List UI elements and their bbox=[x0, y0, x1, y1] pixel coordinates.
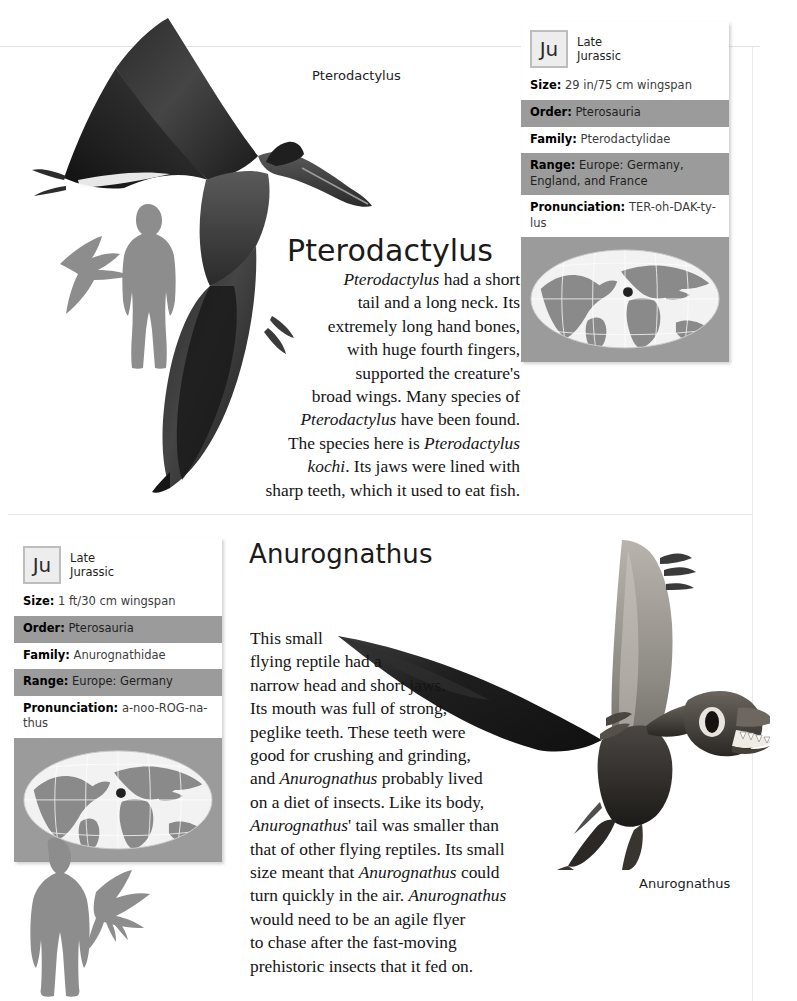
size-label: Size: bbox=[23, 594, 54, 608]
period-header: Ju Late Jurassic bbox=[14, 538, 222, 591]
pterodactylus-caption: Pterodactylus bbox=[312, 68, 401, 83]
jurassic-badge-icon: Ju bbox=[530, 30, 568, 68]
jurassic-badge-icon: Ju bbox=[23, 546, 61, 584]
period-line-1: Late bbox=[70, 551, 95, 565]
period-line-1: Late bbox=[577, 35, 602, 49]
range-label: Range: bbox=[530, 158, 575, 172]
size-row: Size: 29 in/75 cm wingspan bbox=[521, 75, 729, 100]
period-line-2: Jurassic bbox=[70, 565, 114, 579]
family-row: Family: Anurognathidae bbox=[14, 643, 222, 670]
anurognathus-body-text: This small flying reptile had a narrow h… bbox=[250, 627, 550, 978]
family-label: Family: bbox=[530, 132, 577, 146]
world-map-icon bbox=[527, 246, 723, 352]
section-divider-rule bbox=[8, 514, 752, 515]
order-row: Order: Pterosauria bbox=[14, 616, 222, 643]
range-label: Range: bbox=[23, 674, 68, 688]
size-row: Size: 1 ft/30 cm wingspan bbox=[14, 591, 222, 616]
anurognathus-scale-figures bbox=[18, 832, 198, 1001]
pterodactylus-scale-figures bbox=[44, 196, 184, 376]
family-value: Pterodactylidae bbox=[581, 132, 671, 146]
pronunciation-row: Pronunciation: TER-oh-DAK-ty-lus bbox=[521, 195, 729, 237]
period-header: Ju Late Jurassic bbox=[521, 22, 729, 75]
range-marker-icon bbox=[116, 788, 126, 798]
period-name: Late Jurassic bbox=[70, 551, 114, 580]
family-label: Family: bbox=[23, 648, 70, 662]
range-map bbox=[521, 237, 729, 362]
order-value: Pterosauria bbox=[68, 621, 133, 635]
family-row: Family: Pterodactylidae bbox=[521, 127, 729, 154]
range-value: Europe: Germany bbox=[72, 674, 173, 688]
order-label: Order: bbox=[23, 621, 65, 635]
pronunciation-row: Pronunciation: a-noo-ROG-na-thus bbox=[14, 696, 222, 738]
anurognathus-info-box: Ju Late Jurassic Size: 1 ft/30 cm wingsp… bbox=[14, 538, 222, 862]
range-row: Range: Europe: Germany, England, and Fra… bbox=[521, 153, 729, 195]
anurognathus-caption: Anurognathus bbox=[639, 876, 730, 891]
range-marker-icon bbox=[623, 287, 633, 297]
size-label: Size: bbox=[530, 78, 561, 92]
pronunciation-label: Pronunciation: bbox=[23, 701, 118, 715]
family-value: Anurognathidae bbox=[74, 648, 166, 662]
book-page: Pterodactylus Pterodactylus Pterodactylu… bbox=[0, 0, 797, 1001]
period-name: Late Jurassic bbox=[577, 35, 621, 64]
period-line-2: Jurassic bbox=[577, 49, 621, 63]
order-value: Pterosauria bbox=[575, 105, 640, 119]
size-value: 1 ft/30 cm wingspan bbox=[58, 594, 176, 608]
pterodactylus-info-box: Ju Late Jurassic Size: 29 in/75 cm wings… bbox=[521, 22, 729, 362]
pterodactylus-title: Pterodactylus bbox=[287, 233, 493, 268]
pronunciation-label: Pronunciation: bbox=[530, 200, 625, 214]
order-row: Order: Pterosauria bbox=[521, 100, 729, 127]
range-row: Range: Europe: Germany bbox=[14, 669, 222, 696]
order-label: Order: bbox=[530, 105, 572, 119]
size-value: 29 in/75 cm wingspan bbox=[565, 78, 692, 92]
pterodactylus-body-text: Pterodactylus had a short tail and a lon… bbox=[190, 268, 520, 502]
